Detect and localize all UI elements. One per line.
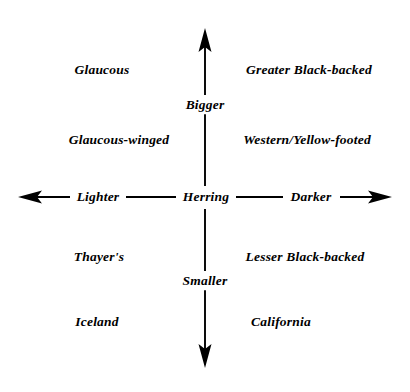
species-label-california: California (251, 315, 311, 329)
species-label-thayers: Thayer's (74, 250, 124, 264)
species-label-glaucous: Glaucous (75, 63, 130, 77)
species-label-greater-black-backed: Greater Black-backed (246, 63, 372, 77)
axis-label-bigger: Bigger (180, 96, 231, 114)
species-label-glaucous-winged: Glaucous-winged (69, 133, 170, 147)
axis-label-smaller: Smaller (177, 272, 234, 290)
species-label-western-yellow-footed: Western/Yellow-footed (243, 133, 371, 147)
axis-label-darker: Darker (286, 189, 337, 205)
species-label-iceland: Iceland (75, 315, 118, 329)
axis-label-lighter: Lighter (72, 189, 125, 205)
axis-label-herring-origin: Herring (178, 189, 234, 205)
species-label-lesser-black-backed: Lesser Black-backed (246, 250, 365, 264)
gull-axis-diagram: Bigger Smaller Lighter Darker Herring Gl… (0, 0, 410, 392)
